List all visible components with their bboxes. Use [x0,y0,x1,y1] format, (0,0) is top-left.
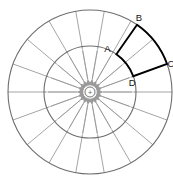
field-arrow-shaft [69,103,84,128]
field-arrow-shaft [97,103,112,128]
radial-spoke [131,107,167,120]
field-arrow-shaft [97,56,112,81]
vertex-label-a: A [104,43,111,54]
radial-spoke [76,135,83,172]
field-arrow-shaft [83,105,88,134]
center-charge-group: + [85,87,95,97]
radial-spoke [49,130,68,163]
field-arrow-shaft [92,51,97,80]
field-arrow-shaft [69,56,84,81]
radial-spoke [49,21,68,54]
plus-sign-icon: + [88,88,93,97]
radial-spoke [27,39,56,63]
radial-spoke [27,120,56,144]
field-arrow-shaft [100,100,122,119]
vertex-label-c: C [168,58,173,69]
radial-spoke [76,11,83,48]
field-arrow-shaft [83,51,88,80]
field-arrow-shaft [102,78,129,88]
field-arrow-shaft [102,96,129,106]
field-arrow-shaft [51,96,78,106]
field-arrow-shaft [58,65,80,84]
field-arrow-shaft [51,78,78,88]
field-arrow-shaft [92,105,97,134]
vertex-label-b: B [136,12,142,23]
radial-spoke [13,107,49,120]
field-arrow-shaft [58,100,80,119]
figure-root: + ABCD [0,0,173,176]
radial-spoke [13,64,49,77]
radial-spoke [124,120,153,144]
radial-spoke [98,135,105,172]
vertex-label-d: D [129,77,136,88]
radial-spoke [124,39,153,63]
radial-field-diagram: + ABCD [0,0,173,176]
field-arrow-shaft [100,65,122,84]
radial-spoke [112,130,131,163]
